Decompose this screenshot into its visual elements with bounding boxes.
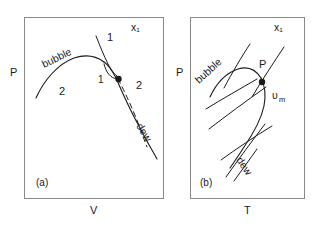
panel-b-tag: (b) <box>200 177 212 188</box>
panel-a-region-label-2-left: 2 <box>59 85 65 97</box>
figure-container: P V x₁ 1 2 1 2 bubble dew (a) <box>0 0 313 232</box>
panel-a-x-axis-label: V <box>90 204 98 216</box>
panel-a: P V x₁ 1 2 1 2 bubble dew (a) <box>10 18 164 217</box>
phase-diagram-figure: P V x₁ 1 2 1 2 bubble dew (a) <box>0 0 313 232</box>
quality-line-b-3 <box>224 44 250 88</box>
panel-a-composition-label: x₁ <box>131 21 140 33</box>
quality-line-b-2 <box>209 87 266 129</box>
panel-b-point-label: P <box>259 58 266 70</box>
panel-a-bubble-label: bubble <box>40 45 74 70</box>
critical-point-marker-a <box>115 76 121 82</box>
bubble-curve-b <box>210 68 261 97</box>
panel-a-region-label-2-right: 2 <box>136 79 142 91</box>
panel-a-tag: (a) <box>36 177 48 188</box>
volume-symbol: υ <box>272 89 278 101</box>
panel-b-volume-label: υ m <box>272 89 285 104</box>
panel-a-y-axis-label: P <box>10 66 17 78</box>
panel-a-border <box>25 18 164 199</box>
panel-a-dew-label: dew <box>134 121 155 144</box>
panel-b-dew-label: dew <box>234 154 255 177</box>
quality-line-b-1 <box>206 79 257 109</box>
panel-b-y-axis-label: P <box>176 66 183 78</box>
critical-point-marker-b <box>259 79 265 85</box>
panel-a-region-label-1-upper: 1 <box>107 31 113 43</box>
panel-b-bubble-label: bubble <box>192 55 224 85</box>
panel-a-region-label-1-inner: 1 <box>98 74 104 85</box>
panel-b-x-axis-label: T <box>244 204 251 216</box>
quality-line-b-4 <box>252 47 284 97</box>
panel-b-composition-label: x₁ <box>274 21 283 33</box>
volume-subscript: m <box>279 95 285 104</box>
panel-b: P T x₁ P υ m bubble dew (b) <box>176 18 305 217</box>
